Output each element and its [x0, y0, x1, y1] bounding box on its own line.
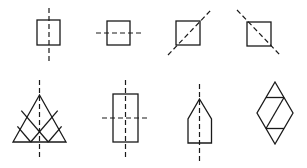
square-vertical-axis	[37, 8, 60, 62]
triangle-lattice-vertical-axis	[13, 80, 66, 158]
square-diagonal-axis-falling	[237, 10, 280, 55]
rhombus-subdivided	[257, 82, 293, 144]
symmetry-diagram	[0, 0, 307, 168]
pentagon-vertical-axis	[188, 84, 212, 161]
rectangle-cross-axes	[102, 80, 150, 158]
square-diagonal-axis-rising	[168, 10, 211, 55]
square-horizontal-axis	[96, 21, 141, 45]
